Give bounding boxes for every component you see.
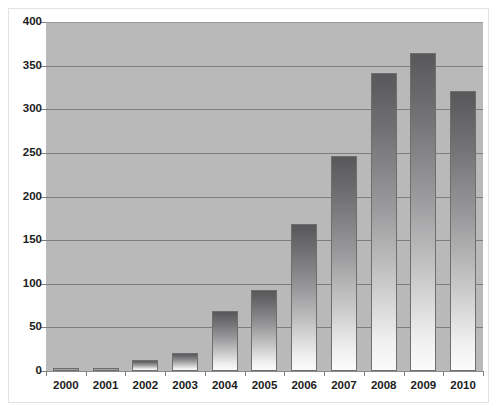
bar-cell-2002 [125,22,165,371]
plot-area [46,22,483,371]
bar-cell-2001 [86,22,126,371]
x-tick-label-2008: 2008 [371,379,397,391]
bar-cell-2010 [443,22,483,371]
bar-cell-2003 [165,22,205,371]
y-tick-label-200: 200 [2,191,42,203]
x-tick-mark-4 [205,371,206,376]
x-tick-label-2010: 2010 [450,379,476,391]
bar-cell-2006 [284,22,324,371]
bar-2002 [132,360,158,371]
y-tick-label-250: 250 [2,147,42,159]
y-tick-label-150: 150 [2,234,42,246]
bar-2008 [371,73,397,371]
y-tick-label-100: 100 [2,278,42,290]
x-tick-label-2005: 2005 [252,379,278,391]
y-tick-label-300: 300 [2,103,42,115]
bar-2005 [251,290,277,371]
x-tick-mark-10 [443,371,444,376]
x-tick-label-2001: 2001 [93,379,119,391]
bar-chart-figure: 050100150200250300350400 200020012002200… [8,8,489,403]
x-tick-mark-5 [245,371,246,376]
x-tick-mark-8 [364,371,365,376]
bar-cell-2007 [324,22,364,371]
x-tick-label-2003: 2003 [172,379,198,391]
x-tick-label-2000: 2000 [53,379,79,391]
y-tick-label-0: 0 [2,365,42,377]
y-tick-label-50: 50 [2,321,42,333]
x-tick-label-2007: 2007 [331,379,357,391]
bar-2004 [212,311,238,371]
bar-2009 [410,53,436,371]
x-tick-mark-11 [483,371,484,376]
x-tick-mark-9 [404,371,405,376]
x-tick-mark-2 [125,371,126,376]
y-tick-label-400: 400 [2,16,42,28]
x-tick-mark-3 [165,371,166,376]
bar-cell-2004 [205,22,245,371]
x-tick-label-2009: 2009 [411,379,437,391]
bar-cell-2000 [46,22,86,371]
bar-cell-2008 [364,22,404,371]
x-tick-mark-0 [46,371,47,376]
x-tick-mark-7 [324,371,325,376]
bar-cell-2009 [404,22,444,371]
x-axis-line [46,371,483,372]
x-tick-mark-6 [284,371,285,376]
x-tick-label-2006: 2006 [291,379,317,391]
bar-2007 [331,156,357,372]
x-tick-label-2002: 2002 [133,379,159,391]
bar-2010 [450,91,476,371]
y-tick-label-350: 350 [2,60,42,72]
bar-cell-2005 [245,22,285,371]
x-tick-mark-1 [86,371,87,376]
bar-2006 [291,224,317,371]
bar-2003 [172,353,198,371]
x-tick-label-2004: 2004 [212,379,238,391]
